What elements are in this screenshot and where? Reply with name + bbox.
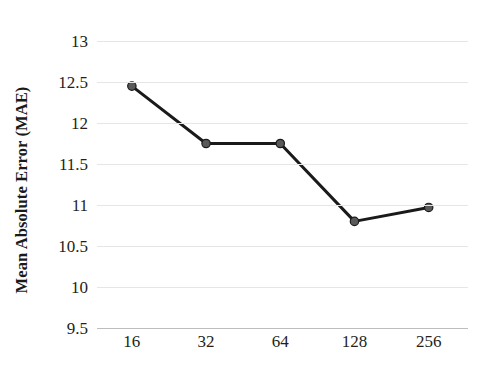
data-point-marker [276, 139, 284, 147]
data-point-marker [350, 217, 358, 225]
x-axis-tick-labels: 163264128256 [97, 331, 468, 361]
series-line-mae [97, 41, 468, 328]
y-tick-label: 9.5 [19, 320, 97, 337]
y-axis-tick-labels: 9.51010.51111.51212.513 [11, 41, 97, 328]
y-tick-label: 11 [19, 197, 97, 214]
gridline-y-10.5 [97, 246, 468, 247]
y-tick-label: 12 [19, 115, 97, 132]
gridline-y-11.5 [97, 164, 468, 165]
series-polyline [132, 86, 429, 221]
x-tick-label: 128 [342, 333, 368, 350]
x-tick-label: 32 [198, 333, 215, 350]
x-tick-label: 16 [123, 333, 140, 350]
gridline-y-11 [97, 205, 468, 206]
y-tick-label: 13 [19, 33, 97, 50]
x-tick-label: 256 [416, 333, 442, 350]
plot-area [97, 41, 468, 328]
data-point-marker [202, 139, 210, 147]
y-tick-label: 10.5 [19, 238, 97, 255]
y-tick-label: 12.5 [19, 74, 97, 91]
x-tick-label: 64 [272, 333, 289, 350]
y-tick-label: 11.5 [19, 156, 97, 173]
mae-line-chart: Mean Absolute Error (MAE) 9.51010.51111.… [0, 0, 491, 376]
y-tick-label: 10 [19, 279, 97, 296]
gridline-y-13 [97, 41, 468, 42]
gridline-y-12.5 [97, 82, 468, 83]
gridline-y-9.5 [97, 328, 468, 329]
data-point-marker [128, 82, 136, 90]
gridline-y-10 [97, 287, 468, 288]
gridline-y-12 [97, 123, 468, 124]
